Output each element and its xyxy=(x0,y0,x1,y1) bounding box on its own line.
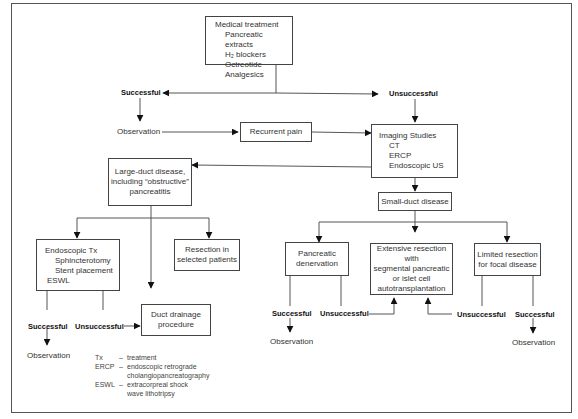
endo-observation-label: Observation xyxy=(27,351,70,360)
imaging-item-1: CT xyxy=(379,141,457,151)
small-duct-disease-box: Small-duct disease xyxy=(378,192,452,211)
medical-treatment-title: Medical treatment xyxy=(215,20,292,30)
legend-abbr: ESWL xyxy=(95,380,119,389)
duct-drainage-line-1: Duct drainage xyxy=(151,310,201,320)
legend-abbr: Tx xyxy=(95,353,119,362)
endoscopic-title: Endoscopic Tx xyxy=(45,246,119,256)
abbreviation-legend: Tx – treatment ERCP – endoscopic retrogr… xyxy=(95,353,210,398)
legend-row-tx: Tx – treatment xyxy=(95,353,210,362)
medical-item-1: Pancreatic extracts xyxy=(215,30,292,50)
lim-unsuccessful-label: Unsuccessful xyxy=(457,310,506,319)
lim-observation-label: Observation xyxy=(512,338,555,347)
medical-item-2: H₂ blockers xyxy=(215,50,292,60)
legend-def: extracorpreal shock xyxy=(127,380,188,389)
den-successful-label: Successful xyxy=(272,309,312,318)
endoscopic-item-2: Stent placement xyxy=(45,266,119,276)
den-observation-label: Observation xyxy=(270,337,313,346)
endoscopic-item-1: Sphincterotomy xyxy=(45,256,119,266)
legend-row-ercp-cont: cholangiopancreatography xyxy=(95,371,210,380)
legend-row-eswl: ESWL – extracorpreal shock xyxy=(95,380,210,389)
resection-selected-line-2: selected patients xyxy=(177,255,237,265)
extensive-line-2: segmental pancreatic xyxy=(373,264,449,274)
legend-row-eswl-cont: wave lithotripsy xyxy=(95,389,210,398)
denervation-line-1: Pancreatic xyxy=(298,249,336,259)
legend-def: treatment xyxy=(127,353,157,362)
legend-abbr: ERCP xyxy=(95,362,119,371)
large-duct-line-3: pancreatitis xyxy=(130,187,171,197)
endoscopic-tx-box: Endoscopic Tx Sphincterotomy Stent place… xyxy=(36,239,120,291)
legend-def-cont: cholangiopancreatography xyxy=(127,371,210,380)
duct-drainage-line-2: procedure xyxy=(158,320,194,330)
extensive-line-3: or islet cell xyxy=(393,274,431,284)
legend-def-cont: wave lithotripsy xyxy=(127,389,175,398)
extensive-line-1: Extensive resection with xyxy=(371,244,452,264)
limited-resection-box: Limited resection for focal disease xyxy=(474,243,541,276)
duct-drainage-box: Duct drainage procedure xyxy=(141,304,211,336)
resection-selected-line-1: Resection in xyxy=(185,245,229,255)
medical-item-3: Octreotide xyxy=(215,60,292,70)
imaging-title: Imaging Studies xyxy=(379,131,457,141)
resection-selected-box: Resection in selected patients xyxy=(174,239,240,271)
den-unsuccessful-label: Unsuccessful xyxy=(320,309,369,318)
legend-def: endoscopic retrograde xyxy=(127,362,197,371)
extensive-line-4: autotransplantation xyxy=(377,284,445,294)
large-duct-line-2: including “obstructive” xyxy=(111,177,189,187)
top-unsuccessful-label: Unsuccessful xyxy=(389,89,438,98)
medical-item-4: Analgesics xyxy=(215,70,292,80)
imaging-studies-box: Imaging Studies CT ERCP Endoscopic US xyxy=(371,124,458,178)
limited-line-2: for focal disease xyxy=(478,260,536,270)
recurrent-pain-label: Recurrent pain xyxy=(250,127,302,137)
pancreatic-denervation-box: Pancreatic denervation xyxy=(285,242,349,276)
lim-successful-label: Successful xyxy=(515,310,555,319)
large-duct-line-1: Large-duct disease, xyxy=(115,167,185,177)
extensive-resection-box: Extensive resection with segmental pancr… xyxy=(370,243,453,295)
legend-dash: – xyxy=(119,353,127,362)
legend-dash: – xyxy=(119,380,127,389)
denervation-line-2: denervation xyxy=(296,259,338,269)
legend-row-ercp: ERCP – endoscopic retrograde xyxy=(95,362,210,371)
observation-top-label: Observation xyxy=(117,127,160,136)
limited-line-1: Limited resection xyxy=(477,250,537,260)
imaging-item-3: Endoscopic US xyxy=(379,161,457,171)
legend-dash: – xyxy=(119,362,127,371)
top-successful-label: Successful xyxy=(121,88,161,97)
endoscopic-item-3: ESWL xyxy=(45,276,119,286)
medical-treatment-box: Medical treatment Pancreatic extracts H₂… xyxy=(205,16,293,65)
endo-unsuccessful-label: Unsuccessful xyxy=(75,322,124,331)
large-duct-disease-box: Large-duct disease, including “obstructi… xyxy=(108,158,192,206)
endo-successful-label: Successful xyxy=(28,322,68,331)
recurrent-pain-box: Recurrent pain xyxy=(240,122,312,142)
small-duct-label: Small-duct disease xyxy=(381,197,449,207)
imaging-item-2: ERCP xyxy=(379,151,457,161)
